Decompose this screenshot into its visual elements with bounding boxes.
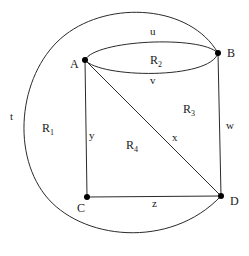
region-label-r2: R2 bbox=[150, 53, 162, 69]
region-label-r1: R1 bbox=[42, 121, 54, 137]
edge-label-t: t bbox=[10, 110, 13, 122]
vertex-label-b: B bbox=[227, 46, 235, 60]
vertex-label-d: D bbox=[230, 194, 239, 208]
vertex-a bbox=[82, 57, 88, 63]
region-label-r3: R3 bbox=[183, 102, 195, 118]
edge-label-x: x bbox=[172, 131, 178, 143]
vertex-d bbox=[218, 193, 224, 199]
vertex-c bbox=[84, 194, 90, 200]
edge-label-z: z bbox=[152, 197, 157, 209]
edge-label-w: w bbox=[226, 119, 234, 131]
edge-y bbox=[85, 60, 87, 197]
edge-label-v: v bbox=[150, 74, 156, 86]
vertex-b bbox=[215, 50, 221, 56]
edge-label-u: u bbox=[150, 25, 156, 37]
graph-diagram: A B C D u v w x y z t R1 R2 R3 R4 bbox=[0, 0, 249, 256]
vertex-label-c: C bbox=[77, 201, 85, 215]
edge-label-y: y bbox=[89, 129, 95, 141]
edge-w bbox=[218, 53, 221, 196]
vertex-label-a: A bbox=[70, 57, 79, 71]
region-label-r4: R4 bbox=[126, 138, 138, 154]
